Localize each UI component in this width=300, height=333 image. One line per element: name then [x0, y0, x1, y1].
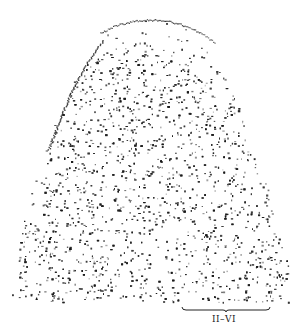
scale-bracket: [0, 0, 300, 333]
layer-range-label: II–VI: [212, 314, 236, 324]
